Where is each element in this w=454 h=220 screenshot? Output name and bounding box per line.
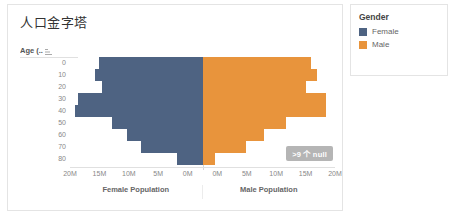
legend-item-label: Female [372,27,399,36]
y-axis-tick: 10 [58,69,66,81]
bar-half-male [203,93,336,105]
bar-half-female [70,117,203,129]
bar-half-female [70,69,203,81]
bar-female[interactable] [112,117,202,129]
x-axis-tick: 5M [242,170,252,177]
bar-half-female [70,57,203,69]
bar-half-female [70,129,203,141]
color-swatch-icon [359,41,367,49]
bar-female[interactable] [177,153,203,165]
x-axis-tick: 15M [299,170,313,177]
bar-male[interactable] [203,93,327,105]
bar-half-male [203,81,336,93]
bar-row [70,69,335,81]
x-axis: 20M15M10M5M0M0M5M10M15M20M [70,167,335,180]
bar-female[interactable] [78,93,203,105]
bar-male[interactable] [203,69,318,81]
x-axis-tick: 15M [93,170,107,177]
worksheet-panel: 人口金字塔 Age (.. 01020304050607080 >9 个 nul… [7,4,343,211]
bar-male[interactable] [203,57,311,69]
y-axis-tick: 20 [58,81,66,93]
y-axis-tick: 40 [58,105,66,117]
bar-half-male [203,129,336,141]
y-axis-tick: 50 [58,117,66,129]
bar-male[interactable] [203,117,286,129]
bar-male[interactable] [203,153,216,165]
y-axis-tick: 60 [58,129,66,141]
bar-row [70,93,335,105]
bar-male[interactable] [203,129,264,141]
legend-item[interactable]: Female [359,27,439,36]
bar-half-female [70,81,203,93]
bar-row [70,129,335,141]
bar-row [70,105,335,117]
bar-half-male [203,57,336,69]
x-axis-titles: Female Population Male Population [70,185,335,199]
x-axis-tick: 0M [183,170,193,177]
x-axis-tick: 5M [153,170,163,177]
legend-title: Gender [359,12,439,22]
y-axis-tick: 80 [58,153,66,165]
x-axis-tick: 20M [63,170,77,177]
bar-female[interactable] [95,69,202,81]
x-axis-title-female: Female Population [70,185,203,199]
bar-male[interactable] [203,81,307,93]
bar-female[interactable] [75,105,202,117]
bar-row [70,57,335,69]
bar-half-female [70,105,203,117]
x-axis-tick: 20M [328,170,342,177]
bar-half-female [70,153,203,165]
legend-item[interactable]: Male [359,40,439,49]
legend-item-label: Male [372,40,389,49]
legend-items: FemaleMale [359,27,439,49]
bar-male[interactable] [203,141,247,153]
x-axis-tick: 10M [122,170,136,177]
bar-female[interactable] [141,141,202,153]
y-axis-header-label: Age (.. [20,46,43,55]
bar-female[interactable] [127,129,203,141]
y-axis-tick-labels: 01020304050607080 [36,57,66,165]
y-axis-header[interactable]: Age (.. [20,44,78,58]
null-indicator-badge[interactable]: >9 个 null [286,146,333,161]
bar-half-male [203,117,336,129]
bar-male[interactable] [203,105,326,117]
plot-area: >9 个 null [70,57,335,165]
y-axis-tick: 0 [62,57,66,69]
bar-half-female [70,93,203,105]
bar-female[interactable] [102,81,202,93]
tableau-viz-container: 人口金字塔 Age (.. 01020304050607080 >9 个 nul… [0,0,454,220]
page-title: 人口金字塔 [20,12,88,31]
bar-row [70,81,335,93]
x-axis-tick: 0M [212,170,222,177]
y-axis-tick: 30 [58,93,66,105]
color-swatch-icon [359,28,367,36]
x-axis-tick: 10M [269,170,283,177]
bar-row [70,117,335,129]
x-axis-title-male: Male Population [203,185,336,199]
bar-half-male [203,105,336,117]
bar-female[interactable] [99,57,202,69]
y-axis-tick: 70 [58,141,66,153]
legend-panel: Gender FemaleMale [350,4,448,76]
bar-half-male [203,69,336,81]
bar-half-female [70,141,203,153]
